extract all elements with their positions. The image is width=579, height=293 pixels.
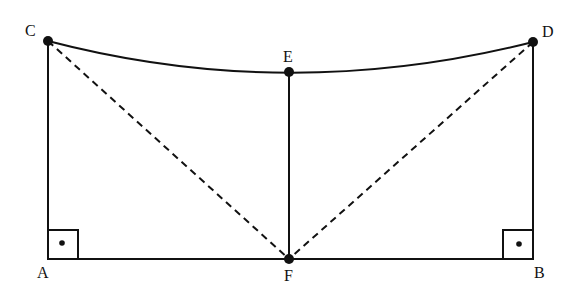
label-a: A	[37, 264, 49, 281]
label-d: D	[542, 23, 554, 40]
right-angle-marker-b	[503, 230, 533, 259]
right-angle-marker-a	[48, 230, 78, 259]
point-c-dot	[43, 36, 53, 46]
dashed-segment-cf	[48, 41, 289, 259]
geometry-diagram: C D E A B F	[0, 0, 579, 293]
label-f: F	[284, 267, 293, 284]
point-d-dot	[528, 37, 538, 47]
label-c: C	[25, 22, 36, 39]
label-b: B	[534, 264, 545, 281]
point-e-dot	[284, 67, 294, 77]
dashed-segment-df	[289, 42, 533, 259]
label-e: E	[283, 48, 293, 65]
point-f-dot	[284, 254, 294, 264]
